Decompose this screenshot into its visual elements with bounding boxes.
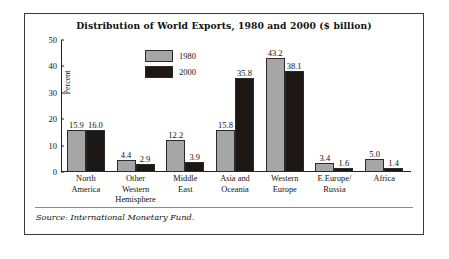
bar-value-label: 3.9 xyxy=(189,152,200,162)
y-tick-label-0: 0 xyxy=(53,167,57,177)
bar-2000-6[interactable]: 1.4 xyxy=(384,168,403,172)
legend-label: 2000 xyxy=(179,67,196,77)
bar-1980-1[interactable]: 4.4 xyxy=(117,160,136,172)
bar-value-label: 5.0 xyxy=(369,149,380,159)
category-label-line: Western xyxy=(260,174,310,185)
chart-legend: 19802000 xyxy=(145,50,196,82)
category-label-line: Africa xyxy=(359,174,409,185)
bar-2000-0[interactable]: 16.0 xyxy=(86,130,105,172)
bar-value-label: 15.8 xyxy=(218,120,233,130)
bar-2000-5[interactable]: 1.6 xyxy=(334,168,353,172)
bar-value-label: 4.4 xyxy=(121,150,132,160)
bar-value-label: 15.9 xyxy=(69,120,84,130)
bar-1980-2[interactable]: 12.2 xyxy=(166,140,185,172)
bar-2000-2[interactable]: 3.9 xyxy=(185,162,204,172)
y-tick-label-50: 50 xyxy=(49,35,58,45)
bar-1980-5[interactable]: 3.4 xyxy=(315,163,334,172)
category-label-4: WesternEurope xyxy=(260,174,310,195)
category-label-6: Africa xyxy=(359,174,409,185)
bar-2000-1[interactable]: 2.9 xyxy=(136,164,155,172)
x-axis-category-labels: NorthAmericaOtherWesternHemisphereMiddle… xyxy=(61,174,409,206)
bar-1980-3[interactable]: 15.8 xyxy=(216,130,235,172)
y-tick-label-10: 10 xyxy=(49,141,58,151)
legend-swatch-icon xyxy=(145,66,173,78)
y-tick-label-30: 30 xyxy=(49,88,58,98)
legend-swatch-icon xyxy=(145,50,173,62)
category-label-5: E.Europe/Russia xyxy=(310,174,360,195)
bar-value-label: 12.2 xyxy=(168,130,183,140)
bar-value-label: 38.1 xyxy=(287,61,302,71)
y-tick-label-40: 40 xyxy=(49,61,58,71)
bar-value-label: 3.4 xyxy=(320,153,331,163)
legend-item-1980[interactable]: 1980 xyxy=(145,50,196,62)
bar-group: 15.835.8 xyxy=(216,40,254,172)
bar-value-label: 35.8 xyxy=(237,68,252,78)
legend-item-2000[interactable]: 2000 xyxy=(145,66,196,78)
bar-2000-4[interactable]: 38.1 xyxy=(285,71,304,172)
category-label-1: OtherWesternHemisphere xyxy=(111,174,161,206)
bar-group: 43.238.1 xyxy=(266,40,304,172)
source-note: Source: International Monetary Fund. xyxy=(36,212,194,222)
bar-2000-3[interactable]: 35.8 xyxy=(235,78,254,173)
bar-value-label: 43.2 xyxy=(268,48,283,58)
bar-1980-4[interactable]: 43.2 xyxy=(266,58,285,172)
bar-group: 3.41.6 xyxy=(315,40,353,172)
category-label-line: Russia xyxy=(310,185,360,196)
category-label-line: North xyxy=(61,174,111,185)
category-label-line: Asia and xyxy=(210,174,260,185)
category-label-line: Europe xyxy=(260,185,310,196)
bar-value-label: 16.0 xyxy=(88,120,103,130)
plot-area: Percent 01020304050 15.916.04.42.912.23.… xyxy=(61,40,409,172)
bar-1980-0[interactable]: 15.9 xyxy=(67,130,86,172)
chart-title: Distribution of World Exports, 1980 and … xyxy=(25,20,423,31)
source-divider xyxy=(35,207,413,208)
category-label-3: Asia andOceania xyxy=(210,174,260,195)
y-tick-label-20: 20 xyxy=(49,114,58,124)
category-label-0: NorthAmerica xyxy=(61,174,111,195)
bar-value-label: 2.9 xyxy=(140,154,151,164)
category-label-line: Other xyxy=(111,174,161,185)
category-label-line: E.Europe/ xyxy=(310,174,360,185)
bar-group: 5.01.4 xyxy=(365,40,403,172)
category-label-2: MiddleEast xyxy=(160,174,210,195)
bar-1980-6[interactable]: 5.0 xyxy=(365,159,384,172)
bar-group: 15.916.0 xyxy=(67,40,105,172)
category-label-line: Oceania xyxy=(210,185,260,196)
category-label-line: Western xyxy=(111,185,161,196)
bar-value-label: 1.6 xyxy=(339,158,350,168)
category-label-line: Hemisphere xyxy=(111,195,161,206)
bar-value-label: 1.4 xyxy=(388,158,399,168)
bar-groups: 15.916.04.42.912.23.915.835.843.238.13.4… xyxy=(61,40,409,172)
category-label-line: East xyxy=(160,185,210,196)
legend-label: 1980 xyxy=(179,51,196,61)
category-label-line: America xyxy=(61,185,111,196)
category-label-line: Middle xyxy=(160,174,210,185)
chart-figure: Distribution of World Exports, 1980 and … xyxy=(24,13,424,235)
